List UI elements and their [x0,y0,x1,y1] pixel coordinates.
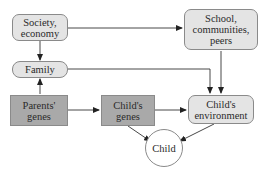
node-parents-genes-line2: genes [23,111,56,122]
node-childs-environment-line1: Child's [194,99,247,110]
node-child: Child [145,129,183,167]
edge-family-environment [68,69,210,93]
node-society-line2: economy [21,28,60,39]
edge-environment-child [180,124,214,141]
node-school-line2: communities, [193,24,250,35]
node-childs-environment: Child's environment [188,95,254,124]
node-school-line1: School, [193,13,250,24]
node-childs-genes-line2: genes [113,111,142,122]
node-parents-genes: Parents' genes [10,95,68,126]
node-society-economy: Society, economy [12,14,68,41]
node-school-communities-peers: School, communities, peers [184,9,258,50]
node-childs-genes-line1: Child's [113,100,142,111]
node-school-line3: peers [193,35,250,46]
node-child-label: Child [152,143,175,154]
node-family-label: Family [25,64,55,75]
node-childs-genes: Child's genes [101,95,155,126]
node-parents-genes-line1: Parents' [23,100,56,111]
node-society-line1: Society, [21,17,60,28]
node-family: Family [12,61,68,78]
node-childs-environment-line2: environment [194,110,247,121]
